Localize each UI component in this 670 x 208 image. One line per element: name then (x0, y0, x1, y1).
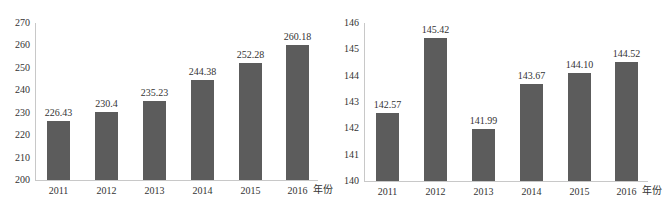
x-tick-label: 2015 (560, 187, 600, 197)
y-tick-label: 141 (331, 150, 359, 160)
y-tick-label: 142 (331, 123, 359, 133)
bar (472, 129, 495, 181)
x-tick-label: 2014 (512, 187, 552, 197)
y-tick-label: 140 (331, 176, 359, 186)
y-tick-label: 144 (331, 71, 359, 81)
value-label: 143.67 (507, 71, 557, 81)
value-label: 142.57 (363, 100, 413, 110)
value-label: 144.10 (555, 60, 605, 70)
chart-right: 140141142143144145146142.572011145.42201… (0, 0, 670, 208)
bar (520, 84, 543, 181)
x-axis-unit-label: 年份 (642, 186, 662, 196)
x-tick-label: 2012 (416, 187, 456, 197)
y-tick-label: 146 (331, 18, 359, 28)
y-tick-label: 143 (331, 97, 359, 107)
bar (376, 113, 399, 181)
x-tick-label: 2016 (607, 187, 647, 197)
bar (424, 38, 447, 181)
x-tick-label: 2011 (368, 187, 408, 197)
y-tick-label: 145 (331, 44, 359, 54)
value-label: 145.42 (411, 25, 461, 35)
x-tick-label: 2013 (464, 187, 504, 197)
value-label: 144.52 (602, 49, 652, 59)
value-label: 141.99 (459, 116, 509, 126)
bar (615, 62, 638, 181)
bar (568, 73, 591, 181)
x-axis-line (364, 181, 648, 182)
